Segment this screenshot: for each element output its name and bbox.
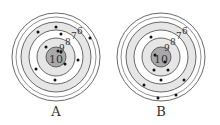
- targets-diagram: 109876109876: [0, 0, 220, 125]
- shot-dot: [37, 31, 40, 34]
- score-label-6: 6: [77, 26, 83, 36]
- score-label-6: 6: [182, 26, 188, 36]
- shot-dot: [35, 68, 38, 71]
- shot-dot: [77, 59, 80, 62]
- shot-dot: [183, 79, 186, 82]
- target-b: 109876: [117, 13, 205, 101]
- shot-dot: [55, 26, 58, 29]
- shot-dot: [89, 37, 92, 40]
- target-a: 109876: [12, 13, 100, 101]
- shot-dot: [143, 84, 146, 87]
- shot-dot: [60, 51, 63, 54]
- shot-dot: [57, 50, 60, 53]
- shot-dot: [153, 69, 156, 72]
- target-a-label: A: [51, 104, 60, 119]
- shot-dot: [157, 97, 160, 100]
- target-b-label: B: [156, 104, 166, 119]
- shot-dot: [64, 63, 67, 66]
- shot-dot: [60, 33, 63, 36]
- score-label-10: 10: [49, 53, 63, 66]
- shot-dot: [175, 94, 178, 97]
- shot-dot: [45, 46, 48, 49]
- shot-dot: [154, 54, 157, 57]
- shot-dot: [167, 69, 170, 72]
- shot-dot: [54, 79, 57, 82]
- shot-dot: [164, 61, 167, 64]
- shot-dot: [160, 79, 163, 82]
- shot-dot: [150, 36, 153, 39]
